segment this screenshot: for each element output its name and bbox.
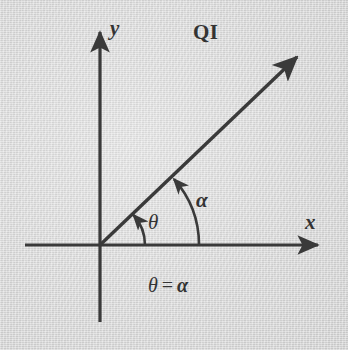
x-axis-label: x: [305, 212, 316, 233]
angle-equation: θ=α: [148, 275, 188, 295]
diagram-canvas: [0, 0, 348, 350]
quadrant-label: QI: [193, 22, 219, 43]
angle-diagram-figure: QI x y θ α θ=α: [0, 0, 348, 350]
y-axis-label: y: [110, 18, 119, 39]
terminal-side-ray: [100, 57, 297, 245]
equation-equals-symbol: =: [158, 274, 177, 296]
equation-alpha-symbol: α: [177, 274, 188, 296]
theta-angle-label: θ: [148, 212, 158, 233]
equation-theta-symbol: θ: [148, 274, 158, 296]
alpha-angle-label: α: [196, 190, 208, 211]
theta-angle-arc: [134, 215, 145, 245]
